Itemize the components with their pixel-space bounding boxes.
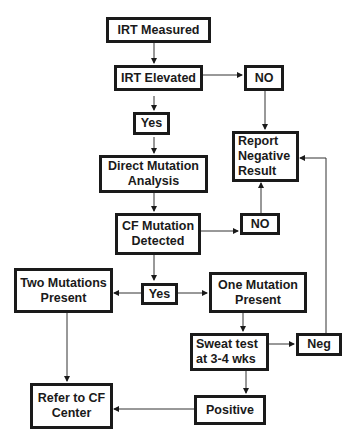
node-sweat-test: Sweat test at 3-4 wks <box>190 333 269 371</box>
node-irt-elevated: IRT Elevated <box>114 65 203 91</box>
node-yes-top: Yes <box>133 112 170 135</box>
node-cf-mutation-detected: CF Mutation Detected <box>115 213 201 255</box>
node-no-mid: NO <box>240 213 280 235</box>
node-report-negative-result: Report Negative Result <box>232 131 299 182</box>
node-one-mutation-present: One Mutation Present <box>209 272 307 313</box>
node-direct-mutation-analysis: Direct Mutation Analysis <box>99 155 208 193</box>
node-two-mutations-present: Two Mutations Present <box>14 268 113 313</box>
node-positive: Positive <box>194 395 266 425</box>
node-no-top: NO <box>244 65 284 91</box>
node-yes-mid: Yes <box>141 283 178 305</box>
node-refer-to-cf-center: Refer to CF Center <box>30 383 113 429</box>
node-irt-measured: IRT Measured <box>106 17 211 43</box>
node-neg: Neg <box>296 333 342 356</box>
